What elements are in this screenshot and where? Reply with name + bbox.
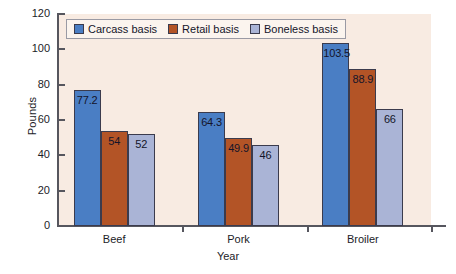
legend-item-boneless-basis[interactable]: Boneless basis xyxy=(250,23,338,35)
x-axis-tick xyxy=(307,227,309,232)
legend-label-boneless-basis: Boneless basis xyxy=(264,23,338,35)
bar: 46 xyxy=(252,145,279,226)
x-axis-title: Year xyxy=(0,250,456,262)
y-axis-tick xyxy=(59,190,65,192)
y-axis-tick-label: 60 xyxy=(10,113,50,125)
bar-value-label: 77.2 xyxy=(75,94,100,106)
legend-item-retail-basis[interactable]: Retail basis xyxy=(168,23,239,35)
bar-value-label: 46 xyxy=(253,149,278,161)
y-axis-tick xyxy=(59,154,65,156)
bar: 103.5 xyxy=(322,43,349,226)
x-axis-tick xyxy=(182,227,184,232)
y-axis-tick-label: 80 xyxy=(10,78,50,90)
bar-value-label: 103.5 xyxy=(323,47,348,59)
legend-label-retail-basis: Retail basis xyxy=(182,23,239,35)
bar: 49.9 xyxy=(225,138,252,226)
bar-chart: Pounds 020406080100120 77.2545264.349.94… xyxy=(0,0,456,274)
y-axis-tick xyxy=(59,84,65,86)
bar-value-label: 54 xyxy=(102,135,127,147)
bar-value-label: 88.9 xyxy=(350,73,375,85)
legend-swatch-icon-retail-basis xyxy=(168,24,178,34)
legend-label-carcass-basis: Carcass basis xyxy=(88,23,157,35)
y-axis-tick xyxy=(59,119,65,121)
x-axis-tick xyxy=(431,227,433,232)
bar: 54 xyxy=(101,131,128,226)
y-axis-tick xyxy=(59,225,65,227)
y-axis-tick-label: 20 xyxy=(10,184,50,196)
y-axis-tick-label: 100 xyxy=(10,42,50,54)
bar: 88.9 xyxy=(349,69,376,226)
legend-swatch-icon-boneless-basis xyxy=(250,24,260,34)
y-axis-tick xyxy=(59,13,65,15)
y-axis-tick xyxy=(59,48,65,50)
x-axis-category-label: Broiler xyxy=(308,233,418,245)
bar-value-label: 49.9 xyxy=(226,142,251,154)
legend-item-carcass-basis[interactable]: Carcass basis xyxy=(74,23,157,35)
bar-value-label: 64.3 xyxy=(199,116,224,128)
x-axis-category-label: Pork xyxy=(184,233,294,245)
bar-value-label: 66 xyxy=(377,113,402,125)
bar: 64.3 xyxy=(198,112,225,226)
y-axis-tick-label: 0 xyxy=(10,219,50,231)
bar: 77.2 xyxy=(74,90,101,226)
bar: 52 xyxy=(128,134,155,226)
x-axis-category-label: Beef xyxy=(59,233,169,245)
bar-value-label: 52 xyxy=(129,138,154,150)
bar: 66 xyxy=(376,109,403,226)
y-axis-tick-label: 40 xyxy=(10,148,50,160)
y-axis-tick-label: 120 xyxy=(10,7,50,19)
legend: Carcass basis Retail basis Boneless basi… xyxy=(66,19,346,39)
legend-swatch-icon-carcass-basis xyxy=(74,24,84,34)
